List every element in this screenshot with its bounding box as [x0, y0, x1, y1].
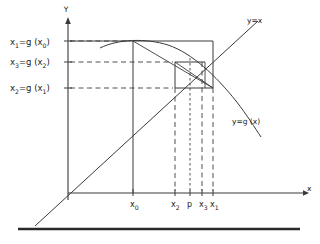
- function-curve-label: y=g (x): [232, 117, 260, 126]
- x-tick-x2-sub: 2: [176, 204, 180, 211]
- y-label-x1-close: ): [46, 37, 49, 47]
- x-tick-x1-sub: 1: [215, 204, 219, 211]
- y-label-x1-eq: =g (: [19, 37, 38, 47]
- x-tick-p-lead: p: [187, 200, 192, 209]
- y-axis-label: Y: [63, 5, 69, 14]
- y-label-x3-eq: =g (: [19, 57, 38, 67]
- y-label-x3-close: ): [46, 57, 49, 67]
- x-axis-label: x: [307, 184, 312, 193]
- x-tick-x0-sub: 0: [135, 204, 139, 211]
- y-label-x2-eq: =g (: [19, 83, 38, 93]
- y-label-x2-close: ): [46, 83, 49, 93]
- x-tick-p: p: [187, 200, 192, 209]
- x-tick-x3-sub: 3: [204, 204, 208, 211]
- cobweb-diagram-figure: Y x y=x y=g (x) x1=g (x0) x3=g (x2) x2=g…: [0, 0, 320, 244]
- identity-line-label: y=x: [247, 16, 263, 25]
